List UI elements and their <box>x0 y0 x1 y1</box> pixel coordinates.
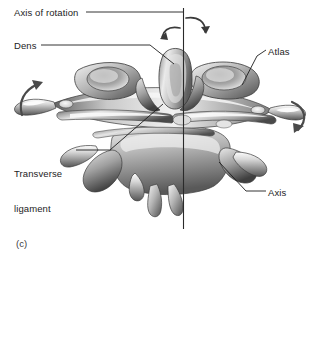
label-transverse-ligament-line1: Transverse <box>14 168 62 180</box>
label-atlas: Atlas <box>268 46 290 58</box>
anatomical-figure: Axis of rotation Dens Atlas Transverse l… <box>0 0 320 353</box>
label-dens: Dens <box>14 40 37 52</box>
label-axis-of-rotation: Axis of rotation <box>14 7 78 19</box>
figure-caption: (c) <box>16 238 27 249</box>
axis-vertebra-body <box>83 126 257 217</box>
dens-odontoid-process <box>159 48 192 109</box>
label-axis: Axis <box>268 187 286 199</box>
label-transverse-ligament-line2: ligament <box>14 203 62 215</box>
label-transverse-ligament: Transverse ligament <box>14 145 62 237</box>
